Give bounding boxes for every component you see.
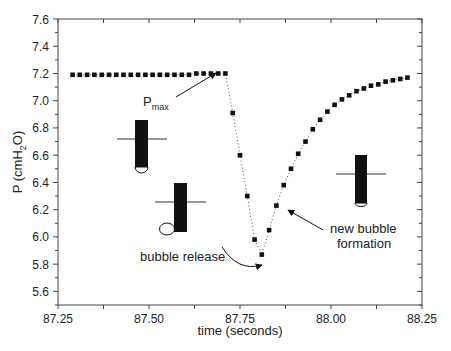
data-point xyxy=(187,73,192,78)
data-point xyxy=(180,73,185,78)
y-tick-label: 6.2 xyxy=(32,203,49,217)
data-point xyxy=(354,89,359,94)
y-axis-label: P (cmH2O) xyxy=(10,131,28,194)
data-point xyxy=(332,103,337,108)
data-point xyxy=(398,77,403,82)
data-point xyxy=(194,71,199,76)
data-point xyxy=(296,152,301,157)
data-point xyxy=(114,73,119,78)
y-tick-label: 6.4 xyxy=(32,176,49,190)
y-tick-label: 6.8 xyxy=(32,121,49,135)
data-point xyxy=(405,75,410,80)
pmax-label: Pmax xyxy=(143,94,169,112)
data-point xyxy=(274,203,279,208)
plot-frame xyxy=(58,19,422,305)
data-point xyxy=(289,167,294,172)
data-point xyxy=(376,82,381,87)
bubble-release-annotation: bubble release xyxy=(140,247,262,267)
x-axis-label: time (seconds) xyxy=(197,323,282,338)
data-point xyxy=(223,71,228,76)
y-tick-label: 7.0 xyxy=(32,94,49,108)
data-point xyxy=(201,71,206,76)
data-point xyxy=(99,73,104,78)
x-tick-label: 87.25 xyxy=(43,312,73,326)
data-point xyxy=(311,127,316,132)
new-bubble-diagram xyxy=(336,155,386,207)
x-axis-ticks: 87.2587.5087.7588.0088.25 xyxy=(43,19,437,326)
data-point xyxy=(107,73,112,78)
new-bubble-arrow-icon xyxy=(288,210,323,230)
data-point xyxy=(245,194,250,199)
data-point xyxy=(383,79,388,84)
data-point xyxy=(347,93,352,98)
data-point xyxy=(267,228,272,233)
y-tick-label: 7.6 xyxy=(32,13,49,27)
y-tick-label: 5.8 xyxy=(32,258,49,272)
data-point xyxy=(325,109,330,114)
x-tick-label: 87.50 xyxy=(134,312,164,326)
data-point xyxy=(238,153,243,158)
data-point xyxy=(143,73,148,78)
pressure-time-chart: 5.65.86.06.26.46.66.87.07.27.47.6 87.258… xyxy=(0,0,451,351)
data-point xyxy=(78,73,83,78)
y-tick-label: 6.6 xyxy=(32,149,49,163)
bubble-release-arrow-icon xyxy=(222,247,262,267)
data-point xyxy=(230,111,235,116)
pmax-annotation: Pmax xyxy=(143,73,216,112)
bubble-release-label: bubble release xyxy=(140,249,225,264)
data-point xyxy=(260,252,265,257)
data-point xyxy=(252,237,257,242)
data-point xyxy=(165,73,170,78)
data-point xyxy=(362,86,367,91)
data-point xyxy=(340,97,345,102)
data-point xyxy=(121,73,126,78)
data-point xyxy=(369,83,374,88)
data-point xyxy=(172,73,177,78)
data-point xyxy=(158,73,163,78)
data-point xyxy=(318,118,323,123)
data-point xyxy=(136,73,141,78)
y-tick-label: 7.2 xyxy=(32,67,49,81)
data-point xyxy=(216,71,221,76)
y-tick-label: 7.4 xyxy=(32,40,49,54)
y-tick-label: 6.0 xyxy=(32,230,49,244)
data-point xyxy=(70,73,75,78)
bubble-growing-diagram xyxy=(117,120,167,173)
data-point xyxy=(281,183,286,188)
new-bubble-label-line1: new bubble xyxy=(330,221,397,236)
new-bubble-label-line2: formation xyxy=(337,236,391,251)
x-tick-label: 88.25 xyxy=(407,312,437,326)
data-point xyxy=(391,78,396,83)
data-point xyxy=(92,73,97,78)
y-tick-label: 5.6 xyxy=(32,285,49,299)
data-point xyxy=(129,73,134,78)
x-tick-label: 88.00 xyxy=(316,312,346,326)
bubble-release-diagram xyxy=(155,183,206,235)
data-point xyxy=(85,73,90,78)
data-point xyxy=(303,139,308,144)
data-point xyxy=(150,73,155,78)
new-bubble-annotation: new bubble formation xyxy=(288,210,397,251)
